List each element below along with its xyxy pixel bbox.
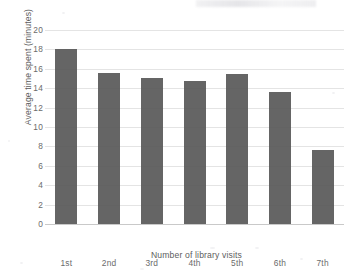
bar-cell — [130, 30, 173, 224]
scan-speckle — [210, 247, 215, 249]
scan-artifact-strip — [196, 0, 316, 7]
bar-cell — [88, 30, 131, 224]
bar-cell — [216, 30, 259, 224]
y-tick-label: 16 — [17, 64, 43, 74]
scan-speckle — [255, 247, 259, 249]
bar-cell — [45, 30, 88, 224]
x-axis-line — [45, 224, 344, 225]
y-tick-label: 8 — [17, 141, 43, 151]
bar — [312, 150, 334, 224]
bar — [184, 81, 206, 224]
scan-speckle — [20, 262, 23, 264]
bar — [269, 92, 291, 224]
plot-area: 02468101214161820 1st2nd3rd4th5th6th7th — [45, 30, 344, 224]
bar — [98, 73, 120, 224]
scan-speckle — [140, 268, 144, 270]
bar-cell — [301, 30, 344, 224]
bar — [226, 74, 248, 224]
bar — [141, 78, 163, 224]
y-tick-label: 12 — [17, 103, 43, 113]
x-axis-title: Number of library visits — [45, 250, 348, 260]
bar — [55, 49, 77, 224]
y-tick-label: 6 — [17, 161, 43, 171]
bar-cell — [173, 30, 216, 224]
y-tick-label: 14 — [17, 83, 43, 93]
scan-speckle — [8, 140, 10, 142]
y-tick-label: 20 — [17, 25, 43, 35]
bar-series — [45, 30, 344, 224]
y-tick-label: 2 — [17, 200, 43, 210]
y-tick-label: 0 — [17, 219, 43, 229]
y-tick-label: 18 — [17, 44, 43, 54]
y-tick-label: 10 — [17, 122, 43, 132]
scan-speckle — [62, 12, 65, 14]
bar-chart: Average time spent (minutes) 02468101214… — [0, 0, 348, 279]
bar-cell — [259, 30, 302, 224]
y-tick-label: 4 — [17, 180, 43, 190]
